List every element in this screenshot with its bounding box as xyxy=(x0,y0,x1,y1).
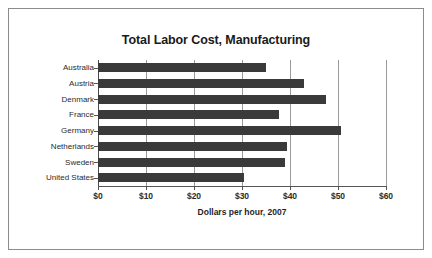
bar-row xyxy=(98,139,386,155)
y-tick xyxy=(94,68,98,69)
y-axis-category-label: Denmark xyxy=(62,95,94,104)
x-tick xyxy=(338,186,339,190)
bar xyxy=(98,79,304,88)
y-axis-category-label: United States xyxy=(46,173,94,182)
x-tick xyxy=(386,186,387,190)
bar xyxy=(98,142,287,151)
y-tick xyxy=(94,83,98,84)
y-axis-category-label: Netherlands xyxy=(51,142,94,151)
bar xyxy=(98,95,326,104)
x-tick-label: $20 xyxy=(187,191,201,201)
y-axis-category-labels: AustraliaAustriaDenmarkFranceGermanyNeth… xyxy=(0,60,94,186)
plot-area: $0$10$20$30$40$50$60 xyxy=(98,60,386,186)
x-axis-title: Dollars per hour, 2007 xyxy=(98,207,386,217)
y-tick xyxy=(94,178,98,179)
y-axis-category-label: Austria xyxy=(69,79,94,88)
x-tick xyxy=(194,186,195,190)
y-axis-category-label: Australia xyxy=(63,63,94,72)
x-tick xyxy=(98,186,99,190)
x-tick-label: $10 xyxy=(139,191,153,201)
bar xyxy=(98,63,266,72)
bar-row xyxy=(98,76,386,92)
y-tick xyxy=(94,131,98,132)
bar xyxy=(98,173,244,182)
bar-row xyxy=(98,155,386,171)
bar-row xyxy=(98,107,386,123)
bar xyxy=(98,110,279,119)
y-tick xyxy=(94,115,98,116)
y-tick xyxy=(94,146,98,147)
x-tick xyxy=(146,186,147,190)
chart-figure: Total Labor Cost, Manufacturing Australi… xyxy=(0,0,432,258)
bar-row xyxy=(98,123,386,139)
y-axis-category-label: France xyxy=(69,110,94,119)
chart-title: Total Labor Cost, Manufacturing xyxy=(0,33,432,47)
bar xyxy=(98,158,285,167)
bar-row xyxy=(98,60,386,76)
y-axis-category-label: Sweden xyxy=(65,158,94,167)
bar xyxy=(98,126,341,135)
y-axis-category-label: Germany xyxy=(61,126,94,135)
x-tick-label: $50 xyxy=(331,191,345,201)
bar-row xyxy=(98,92,386,108)
x-tick-label: $40 xyxy=(283,191,297,201)
bar-row xyxy=(98,170,386,186)
x-tick-label: $0 xyxy=(93,191,102,201)
y-tick xyxy=(94,99,98,100)
x-tick-label: $60 xyxy=(379,191,393,201)
x-tick xyxy=(242,186,243,190)
x-tick-label: $30 xyxy=(235,191,249,201)
x-tick xyxy=(290,186,291,190)
y-tick xyxy=(94,162,98,163)
x-gridline xyxy=(386,60,387,186)
